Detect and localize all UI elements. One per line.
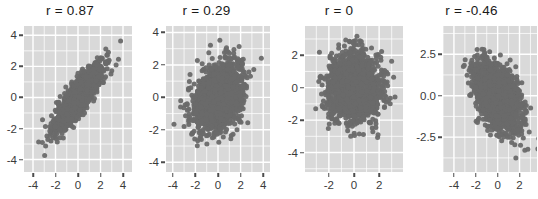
y-tick-mark	[19, 97, 23, 99]
y-tick-label: -2.5	[416, 131, 436, 143]
x-tick-label: -2	[324, 179, 334, 191]
x-tick-label: 0	[351, 179, 357, 191]
x-tick-label: 4	[260, 179, 266, 191]
plot-area	[166, 26, 270, 172]
panel-title: r = -0.46	[405, 3, 538, 18]
x-tick-label: -4	[449, 179, 459, 191]
panel-title: r = 0	[273, 3, 405, 18]
x-tick-label: 0	[494, 179, 500, 191]
x-tick-mark	[519, 173, 521, 177]
scatter-panel-2: r = 0.29-4-2024-4-2024	[140, 0, 273, 199]
scatter-panel-1: r = 0.87-4-2024-4-2024	[0, 0, 140, 199]
x-tick-mark	[172, 173, 174, 177]
x-tick-mark	[240, 173, 242, 177]
panel-title: r = 0.87	[0, 3, 140, 18]
x-tick-mark	[262, 173, 264, 177]
x-tick-mark	[77, 173, 79, 177]
x-tick-label: 0	[215, 179, 221, 191]
x-tick-label: -2	[471, 179, 481, 191]
data-points	[313, 34, 397, 140]
x-tick-mark	[122, 173, 124, 177]
y-tick-mark	[300, 87, 304, 89]
x-tick-label: -4	[168, 179, 178, 191]
y-tick-label: -2	[149, 124, 159, 136]
plot-area	[305, 26, 403, 172]
y-tick-label: 0	[292, 82, 298, 94]
x-tick-label: 4	[120, 179, 126, 191]
x-tick-mark	[195, 173, 197, 177]
y-tick-mark	[161, 32, 165, 34]
y-tick-mark	[19, 128, 23, 130]
x-tick-mark	[217, 173, 219, 177]
y-tick-label: -2	[7, 123, 17, 135]
x-tick-mark	[378, 173, 380, 177]
y-tick-label: 2	[292, 49, 298, 61]
x-tick-label: -4	[28, 179, 38, 191]
panel-title: r = 0.29	[140, 3, 273, 18]
data-points	[36, 38, 123, 158]
y-tick-label: 2.5	[420, 48, 436, 60]
y-tick-label: 0.0	[420, 90, 436, 102]
y-tick-mark	[300, 54, 304, 56]
x-tick-mark	[55, 173, 57, 177]
y-tick-label: 0	[11, 91, 17, 103]
scatterplot-row-figure: r = 0.87-4-2024-4-2024r = 0.29-4-2024-4-…	[0, 0, 538, 199]
x-tick-mark	[100, 173, 102, 177]
scatter-panel-4: r = -0.46-2.50.02.5-4-202	[405, 0, 538, 199]
scatter-panel-3: r = 0-4-202-202	[273, 0, 405, 199]
x-tick-mark	[475, 173, 477, 177]
data-points	[461, 47, 537, 161]
y-tick-label: -4	[149, 156, 159, 168]
y-tick-label: 2	[153, 59, 159, 71]
y-tick-mark	[438, 53, 442, 55]
x-tick-label: 2	[516, 179, 522, 191]
x-tick-mark	[353, 173, 355, 177]
y-tick-mark	[161, 97, 165, 99]
y-tick-label: 2	[11, 60, 17, 72]
x-tick-mark	[328, 173, 330, 177]
y-tick-mark	[161, 129, 165, 131]
x-tick-label: 2	[97, 179, 103, 191]
x-tick-label: 0	[75, 179, 81, 191]
x-tick-mark	[497, 173, 499, 177]
y-tick-mark	[161, 64, 165, 66]
x-tick-label: -2	[50, 179, 60, 191]
plot-area	[24, 26, 132, 172]
y-tick-label: 4	[11, 29, 17, 41]
y-tick-label: 0	[153, 91, 159, 103]
y-tick-mark	[19, 159, 23, 161]
y-tick-mark	[19, 35, 23, 37]
y-tick-mark	[438, 136, 442, 138]
y-tick-label: -2	[288, 114, 298, 126]
y-tick-mark	[438, 95, 442, 97]
y-tick-mark	[19, 66, 23, 68]
y-tick-label: 4	[153, 26, 159, 38]
y-tick-label: -4	[288, 147, 298, 159]
x-tick-label: 2	[376, 179, 382, 191]
plot-area	[443, 26, 537, 172]
y-tick-label: -4	[7, 154, 17, 166]
x-tick-label: 2	[237, 179, 243, 191]
y-tick-mark	[161, 162, 165, 164]
x-tick-label: -2	[190, 179, 200, 191]
y-tick-mark	[300, 119, 304, 121]
x-tick-mark	[453, 173, 455, 177]
y-tick-mark	[300, 152, 304, 154]
x-tick-mark	[32, 173, 34, 177]
